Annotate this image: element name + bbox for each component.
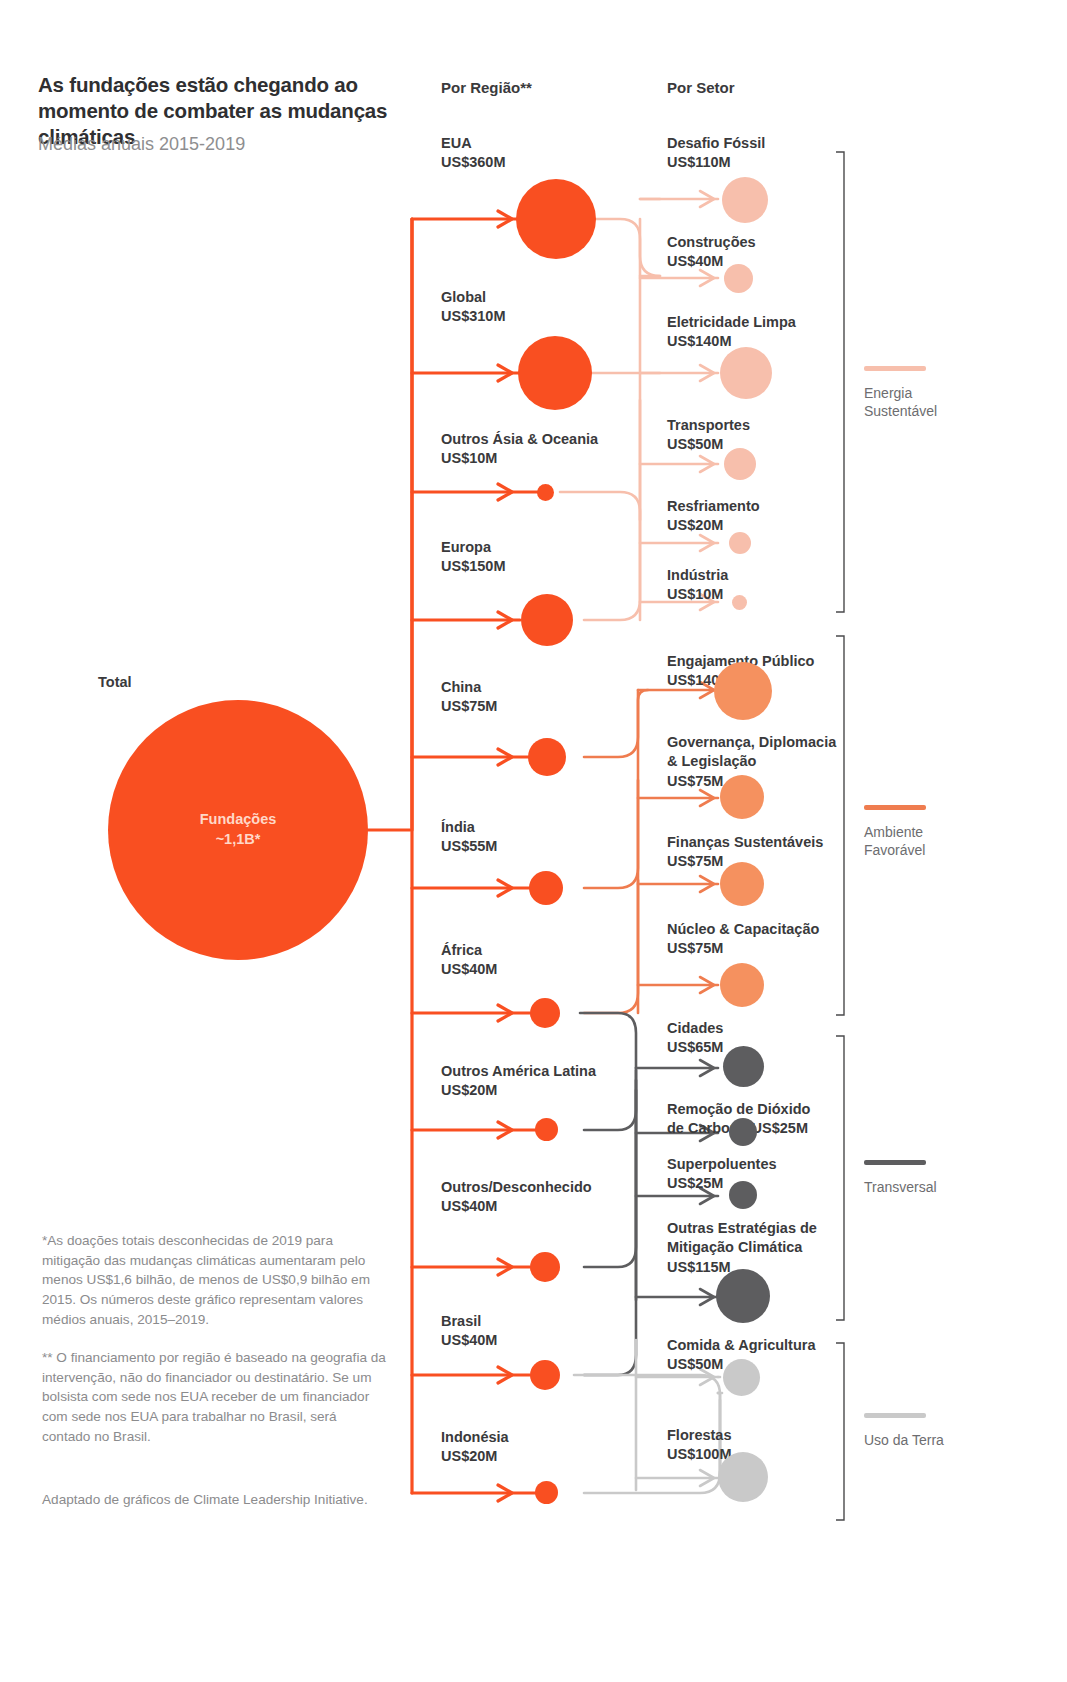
sector-label-financas-sustentaveis: Finanças Sustentáveis US$75M — [667, 833, 862, 872]
footnote-one: *As doações totais desconhecidas de 2019… — [42, 1231, 387, 1330]
region-label-eua: EUA US$360M — [441, 134, 656, 173]
legend-label-transversal: Transversal — [864, 1178, 974, 1196]
sector-bubble-resfriamento[interactable] — [729, 532, 751, 554]
sector-label-industria: Indústria US$10M — [667, 566, 847, 605]
sector-bubble-transportes[interactable] — [724, 448, 756, 480]
legend-item-terra: Uso da Terra — [864, 1413, 974, 1449]
sector-label-transportes: Transportes US$50M — [667, 416, 847, 455]
legend-item-transversal: Transversal — [864, 1160, 974, 1196]
region-bubble-outros-desconhecido[interactable] — [530, 1252, 560, 1282]
sector-bubble-financas[interactable] — [720, 862, 764, 906]
sector-label-resfriamento: Resfriamento US$20M — [667, 497, 847, 536]
region-bubble-asia-oceania[interactable] — [537, 484, 554, 501]
region-label-outros-desconhecido: Outros/Desconhecido US$40M — [441, 1178, 656, 1217]
footnote-two: ** O financiamento por região é baseado … — [42, 1348, 387, 1447]
region-label-global: Global US$310M — [441, 288, 656, 327]
region-bubble-america-latina[interactable] — [535, 1118, 558, 1141]
footnote-three: Adaptado de gráficos de Climate Leadersh… — [42, 1490, 387, 1510]
region-bubble-brasil[interactable] — [530, 1360, 560, 1390]
column-header-region: Por Região** — [441, 79, 532, 96]
region-label-africa: África US$40M — [441, 941, 656, 980]
total-label: Total — [98, 674, 132, 690]
region-label-brasil: Brasil US$40M — [441, 1312, 656, 1351]
sector-bubble-eletricidade[interactable] — [720, 347, 772, 399]
legend-swatch-ambiente — [864, 805, 926, 810]
sector-bubble-industria[interactable] — [732, 595, 747, 610]
sector-bubble-remocao-co2[interactable] — [729, 1118, 757, 1146]
sector-bubble-outras-estrategias[interactable] — [716, 1269, 770, 1323]
region-bubble-global[interactable] — [518, 336, 592, 410]
region-label-asia-oceania: Outros Ásia & Oceania US$10M — [441, 430, 656, 469]
sector-label-construcoes: Construções US$40M — [667, 233, 847, 272]
total-bubble[interactable]: Fundações ~1,1B* — [108, 700, 368, 960]
legend-item-ambiente: Ambiente Favorável — [864, 805, 974, 860]
sector-label-nucleo-capacitacao: Núcleo & Capacitação US$75M — [667, 920, 862, 959]
legend-swatch-transversal — [864, 1160, 926, 1165]
sector-bubble-cidades[interactable] — [723, 1046, 764, 1087]
legend-label-ambiente: Ambiente Favorável — [864, 823, 974, 860]
sector-label-desafio-fossil: Desafio Fóssil US$110M — [667, 134, 847, 173]
legend-swatch-energia — [864, 366, 926, 371]
sector-bubble-florestas[interactable] — [718, 1452, 768, 1502]
region-label-indonesia: Indonésia US$20M — [441, 1428, 656, 1467]
sector-label-remocao-co2: Remoção de Dióxido de Carbono US$25M — [667, 1100, 847, 1139]
sector-label-governanca: Governança, Diplomacia & Legislação US$7… — [667, 733, 852, 791]
sector-bubble-governanca[interactable] — [720, 775, 764, 819]
sector-label-outras-estrategias: Outras Estratégias de Mitigação Climátic… — [667, 1219, 842, 1277]
legend-label-terra: Uso da Terra — [864, 1431, 974, 1449]
total-bubble-value: ~1,1B* — [216, 830, 261, 850]
column-header-sector: Por Setor — [667, 79, 735, 96]
region-bubble-africa[interactable] — [530, 998, 560, 1028]
page-subtitle: Médias anuais 2015-2019 — [38, 133, 438, 156]
region-bubble-china[interactable] — [528, 738, 566, 776]
region-label-china: China US$75M — [441, 678, 656, 717]
sector-label-superpoluentes: Superpoluentes US$25M — [667, 1155, 847, 1194]
region-bubble-eua[interactable] — [516, 179, 596, 259]
region-bubble-india[interactable] — [529, 871, 563, 905]
sector-bubble-nucleo[interactable] — [720, 963, 764, 1007]
region-label-europa: Europa US$150M — [441, 538, 656, 577]
sector-bubble-engajamento[interactable] — [714, 662, 772, 720]
sector-bubble-construcoes[interactable] — [724, 264, 753, 293]
sector-label-eletricidade-limpa: Eletricidade Limpa US$140M — [667, 313, 867, 352]
legend-label-energia: Energia Sustentável — [864, 384, 974, 421]
sector-bubble-desafio-fossil[interactable] — [722, 177, 768, 223]
region-bubble-europa[interactable] — [521, 594, 573, 646]
total-bubble-name: Fundações — [200, 810, 277, 830]
region-bubble-indonesia[interactable] — [535, 1481, 558, 1504]
region-label-india: Índia US$55M — [441, 818, 656, 857]
region-label-america-latina: Outros América Latina US$20M — [441, 1062, 656, 1101]
legend-swatch-terra — [864, 1413, 926, 1418]
legend-item-energia: Energia Sustentável — [864, 366, 974, 421]
sector-bubble-comida[interactable] — [723, 1359, 760, 1396]
sector-bubble-superpoluentes[interactable] — [729, 1181, 757, 1209]
